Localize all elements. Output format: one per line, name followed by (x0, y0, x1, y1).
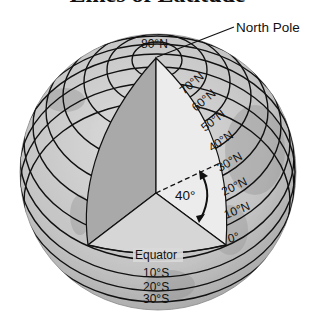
globe-diagram: 40° North Pole 80°N 70°N 60°N 50°N 40°N … (0, 0, 315, 326)
label-10s: 10°S (143, 266, 169, 280)
angle-label: 40° (175, 188, 195, 203)
label-30s: 30°S (143, 292, 169, 306)
label-80n: 80°N (141, 37, 168, 51)
north-pole-label: North Pole (236, 20, 300, 35)
equator-label: Equator (135, 248, 177, 262)
south-latitude-labels: 10°S 20°S 30°S (143, 266, 169, 306)
